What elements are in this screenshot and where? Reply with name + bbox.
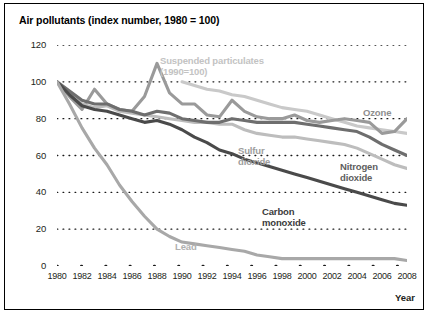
chart-figure: Air pollutants (index number, 1980 = 100… xyxy=(0,0,432,319)
x-tick-2008: 2008 xyxy=(390,271,424,281)
y-tick-20: 20 xyxy=(20,223,46,234)
series-label-lead: Lead xyxy=(175,241,197,252)
y-tick-60: 60 xyxy=(20,150,46,161)
chart-canvas xyxy=(57,45,407,266)
x-axis-title: Year xyxy=(395,292,415,303)
series-label-suspended-particulates: Suspended particulates (1990=100) xyxy=(160,55,264,77)
series-label-carbon-monoxide: Carbon monoxide xyxy=(262,206,306,228)
chart-title: Air pollutants (index number, 1980 = 100… xyxy=(19,14,219,26)
series-label-ozone: Ozone xyxy=(363,107,391,118)
plot-area xyxy=(57,45,407,266)
y-tick-100: 100 xyxy=(20,76,46,87)
y-tick-40: 40 xyxy=(20,186,46,197)
y-tick-80: 80 xyxy=(20,113,46,124)
y-tick-120: 120 xyxy=(20,39,46,50)
series-label-sulfur-dioxide: Sulfur dioxide xyxy=(238,145,270,167)
series-label-nitrogen-dioxide: Nitrogen dioxide xyxy=(340,161,378,183)
y-tick-0: 0 xyxy=(20,260,46,271)
